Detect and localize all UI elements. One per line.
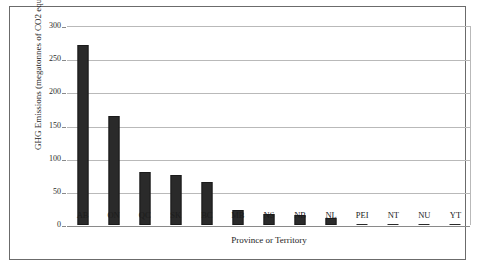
x-tick-label-ns: NS	[252, 211, 286, 220]
y-tick-label: 100	[49, 155, 61, 163]
y-tick-mark	[62, 60, 66, 61]
chart-outer-frame: GHG Emissions (megatonnes of CO2 equival…	[9, 6, 466, 260]
x-tick-label-pei: PEI	[345, 211, 379, 220]
y-tick-mark	[62, 93, 66, 94]
x-tick-label-nl: NL	[314, 211, 348, 220]
bar-slot	[440, 27, 471, 225]
x-tick-label-mb: MB	[221, 211, 255, 220]
bar-yt[interactable]	[450, 224, 461, 225]
y-tick-label: 200	[49, 88, 61, 96]
bar-series	[67, 27, 470, 225]
bar-slot	[98, 27, 129, 225]
y-tick-label: 50	[53, 188, 61, 196]
bar-slot	[347, 27, 378, 225]
bar-slot	[253, 27, 284, 225]
bar-slot	[316, 27, 347, 225]
y-tick-label: 300	[49, 22, 61, 30]
bar-pei[interactable]	[357, 224, 368, 225]
x-tick-label-nu: NU	[407, 211, 441, 220]
bar-slot	[160, 27, 191, 225]
x-tick-label-yt: YT	[438, 211, 472, 220]
x-tick-label-qc: QC	[128, 211, 162, 220]
y-tick-mark	[62, 127, 66, 128]
y-tick-mark	[62, 27, 66, 28]
plot-area	[67, 26, 471, 225]
bar-slot	[129, 27, 160, 225]
bar-on[interactable]	[108, 116, 119, 225]
bar-nt[interactable]	[388, 224, 399, 225]
x-tick-label-bc: BC	[190, 211, 224, 220]
bar-slot	[285, 27, 316, 225]
y-tick-mark	[62, 160, 66, 161]
y-tick-label: 250	[49, 55, 61, 63]
x-tick-label-nb: NB	[283, 211, 317, 220]
y-tick-label: 150	[49, 122, 61, 130]
bar-slot	[222, 27, 253, 225]
bar-slot	[378, 27, 409, 225]
x-tick-label-sk: SK	[159, 211, 193, 220]
bar-slot	[409, 27, 440, 225]
bar-nu[interactable]	[419, 224, 430, 225]
x-tick-label-on: ON	[97, 211, 131, 220]
gridline-0	[67, 226, 470, 227]
bar-ab[interactable]	[77, 45, 88, 225]
y-tick-mark	[62, 226, 66, 227]
chart-figure: GHG Emissions (megatonnes of CO2 equival…	[0, 0, 477, 275]
y-tick-mark	[62, 193, 66, 194]
x-axis-label: Province or Territory	[67, 235, 471, 245]
x-tick-label-nt: NT	[376, 211, 410, 220]
bar-slot	[67, 27, 98, 225]
x-tick-label-ab: AB	[66, 211, 100, 220]
bar-slot	[191, 27, 222, 225]
y-tick-label: 0	[57, 221, 61, 229]
y-axis-tick-labels: 0 50 100 150 200 250 300	[37, 26, 61, 225]
